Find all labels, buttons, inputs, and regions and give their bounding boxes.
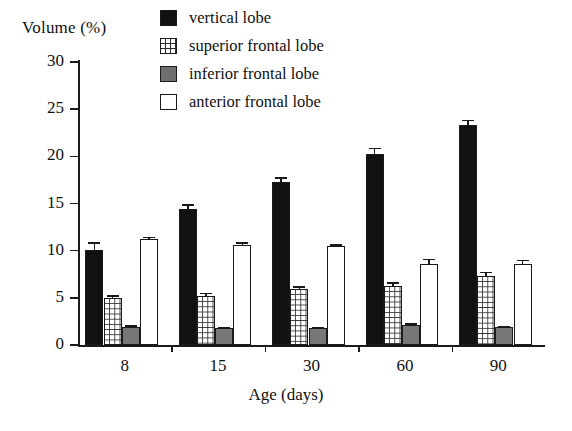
error-bar-cap	[236, 242, 248, 244]
error-bar-cap	[369, 148, 381, 150]
legend-item-black: vertical lobe	[160, 10, 324, 26]
legend-item-grid: superior frontal lobe	[160, 38, 324, 54]
y-tick-label: 10	[20, 240, 64, 260]
plot-area	[78, 62, 545, 345]
y-tick-mark	[70, 344, 78, 346]
bar	[104, 298, 122, 345]
error-bar-cap	[405, 323, 417, 325]
bar	[402, 325, 420, 345]
x-tick-label: 60	[375, 356, 435, 376]
bar	[122, 327, 140, 345]
x-tick-label: 90	[468, 356, 528, 376]
y-tick-label: 5	[20, 287, 64, 307]
bar	[495, 327, 513, 345]
x-tick-mark	[358, 345, 360, 352]
bar	[514, 264, 532, 345]
bar	[140, 239, 158, 345]
x-tick-label: 15	[188, 356, 248, 376]
error-bar-cap	[330, 244, 342, 246]
y-tick-label: 25	[20, 98, 64, 118]
bar	[459, 125, 477, 345]
legend-swatch-black-icon	[160, 10, 177, 26]
y-tick-mark	[70, 108, 78, 110]
error-bar-cap	[275, 177, 287, 179]
y-tick-mark	[70, 250, 78, 252]
error-bar-cap	[480, 272, 492, 274]
bar	[215, 328, 233, 345]
error-bar-cap	[125, 325, 137, 327]
bar	[309, 328, 327, 345]
error-bar-cap	[293, 286, 305, 288]
y-tick-mark	[70, 297, 78, 299]
bar	[197, 296, 215, 345]
bar	[420, 264, 438, 345]
error-bar-cap	[498, 326, 510, 328]
y-tick-label: 15	[20, 193, 64, 213]
error-bar-cap	[387, 282, 399, 284]
error-bar-cap	[88, 242, 100, 244]
x-tick-mark	[452, 345, 454, 352]
y-tick-label: 0	[20, 334, 64, 354]
bar	[290, 289, 308, 345]
y-axis-title: Volume (%)	[22, 18, 106, 38]
bar	[477, 276, 495, 345]
bar	[366, 154, 384, 345]
x-tick-label: 30	[282, 356, 342, 376]
bar-chart-figure: Volume (%) vertical lobesuperior frontal…	[0, 0, 572, 431]
error-bar-cap	[200, 293, 212, 295]
x-axis-title: Age (days)	[0, 385, 572, 405]
error-bar-cap	[107, 295, 119, 297]
y-tick-mark	[70, 156, 78, 158]
x-axis-line	[78, 345, 545, 347]
error-bar-cap	[423, 259, 435, 261]
bar	[179, 209, 197, 345]
bar	[85, 250, 103, 345]
error-bar-cap	[312, 327, 324, 329]
x-tick-mark	[265, 345, 267, 352]
legend-item-label: vertical lobe	[189, 10, 271, 26]
bar	[327, 246, 345, 345]
bar	[233, 245, 251, 345]
error-bar-cap	[462, 120, 474, 122]
error-bar-cap	[182, 204, 194, 206]
x-tick-mark	[171, 345, 173, 352]
y-tick-label: 20	[20, 145, 64, 165]
y-tick-mark	[70, 203, 78, 205]
error-bar-cap	[143, 237, 155, 239]
legend-swatch-grid-icon	[160, 38, 177, 54]
bar	[384, 286, 402, 345]
x-tick-label: 8	[95, 356, 155, 376]
legend-item-label: superior frontal lobe	[189, 38, 324, 54]
error-bar-cap	[517, 260, 529, 262]
error-bar-cap	[218, 327, 230, 329]
y-tick-label: 30	[20, 51, 64, 71]
y-tick-mark	[70, 61, 78, 63]
bar	[272, 182, 290, 345]
